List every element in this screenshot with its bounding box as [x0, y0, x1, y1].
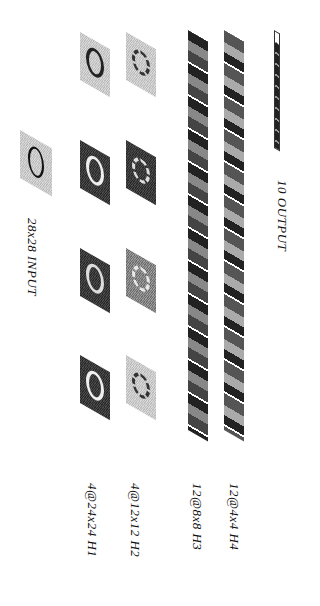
h4-feature-map-strip — [224, 30, 244, 442]
h1-feature-map-2 — [80, 140, 110, 205]
h3-feature-map-strip — [188, 30, 208, 442]
h4-layer-label: 12@4x4 H4 — [226, 483, 242, 550]
digit-zero-glyph — [28, 143, 44, 182]
feature-ring — [86, 259, 104, 297]
h1-feature-map-1 — [80, 32, 110, 97]
feature-ring — [86, 151, 104, 189]
h1-layer-label: 4@24x24 H1 — [84, 483, 100, 557]
h2-feature-map-2 — [126, 140, 156, 205]
feature-ring — [86, 43, 104, 81]
input-layer-label: 28x28 INPUT — [24, 218, 40, 296]
feature-ring — [132, 153, 150, 187]
input-feature-map — [20, 130, 52, 196]
feature-ring — [132, 368, 150, 402]
h3-layer-label: 12@8x8 H3 — [189, 483, 205, 550]
h2-feature-map-1 — [126, 32, 156, 97]
feature-ring — [132, 45, 150, 79]
h2-feature-map-4 — [126, 355, 156, 420]
feature-ring — [86, 366, 104, 404]
output-unit-strip — [274, 30, 280, 151]
h1-feature-map-4 — [80, 355, 110, 420]
h2-feature-map-3 — [126, 248, 156, 313]
feature-ring — [132, 261, 150, 295]
h2-layer-label: 4@12x12 H2 — [127, 483, 143, 557]
h1-feature-map-3 — [80, 248, 110, 313]
output-layer-label: 10 OUTPUT — [274, 180, 290, 251]
